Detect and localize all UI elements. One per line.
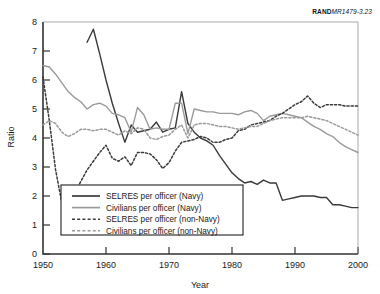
x-axis-title: Year — [191, 280, 209, 290]
source-id-prefix: RAND — [312, 8, 331, 15]
x-axis-tick-group: 195019601970198019902000 — [33, 247, 368, 270]
source-id-label: RANDMR1479-3.23 — [312, 8, 372, 15]
y-axis-tick-label: 0 — [32, 249, 37, 259]
legend-label: Civilians per officer (non-Navy) — [106, 227, 218, 236]
legend-label: SELRES per officer (non-Navy) — [106, 215, 220, 224]
x-axis-tick-label: 1950 — [33, 260, 53, 270]
y-axis-tick-label: 3 — [32, 162, 37, 172]
x-axis-tick-label: 1990 — [285, 260, 305, 270]
source-id-number: MR1479-3.23 — [332, 8, 372, 15]
x-axis-tick-label: 1960 — [96, 260, 116, 270]
y-axis-tick-group: 012345678 — [32, 17, 50, 259]
chart-figure: RANDMR1479-3.23 Ratio Year 012345678 195… — [0, 0, 380, 294]
y-axis-tick-label: 8 — [32, 17, 37, 27]
y-axis-tick-label: 7 — [32, 46, 37, 56]
y-axis-tick-label: 4 — [32, 133, 37, 143]
x-axis-tick-label: 2000 — [348, 260, 368, 270]
legend-label: SELRES per officer (Navy) — [106, 192, 203, 201]
data-series-group — [43, 29, 358, 207]
x-axis-tick-label: 1980 — [222, 260, 242, 270]
x-axis-tick-label: 1970 — [159, 260, 179, 270]
y-axis-tick-label: 2 — [32, 191, 37, 201]
y-axis-tick-label: 1 — [32, 220, 37, 230]
legend-label: Civilians per officer (Navy) — [106, 204, 202, 213]
line-chart-plot: Ratio Year 012345678 1950196019701980199… — [0, 0, 380, 294]
y-axis-tick-label: 6 — [32, 75, 37, 85]
chart-legend: SELRES per officer (Navy)Civilians per o… — [61, 185, 243, 236]
series-line — [43, 66, 358, 153]
y-axis-title: Ratio — [6, 126, 16, 147]
y-axis-tick-label: 5 — [32, 104, 37, 114]
